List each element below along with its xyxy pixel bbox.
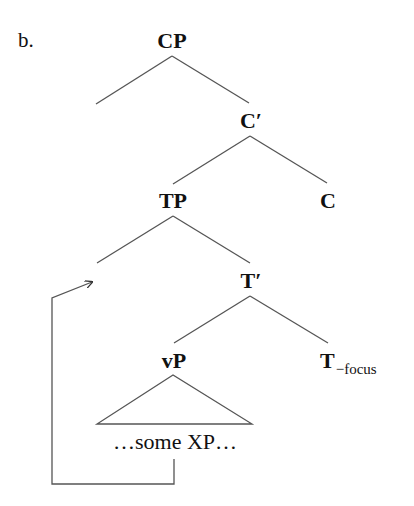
node-t-bar: T′ bbox=[241, 270, 262, 292]
cbar-right-branch bbox=[250, 136, 327, 183]
cp-right-branch bbox=[172, 56, 249, 103]
t-head-subscript: −focus bbox=[336, 361, 377, 377]
vp-triangle bbox=[97, 375, 252, 424]
node-c: C bbox=[320, 190, 336, 212]
cp-left-branch bbox=[96, 56, 172, 104]
tp-left-branch bbox=[97, 216, 173, 263]
vp-content: …some XP… bbox=[113, 431, 237, 453]
t-head-label: T bbox=[320, 348, 335, 373]
node-vp: vP bbox=[162, 350, 186, 372]
cbar-left-branch bbox=[173, 136, 250, 184]
node-t-head: T−focus bbox=[320, 350, 377, 374]
tbar-left-branch bbox=[174, 296, 250, 343]
node-c-bar: C′ bbox=[240, 110, 262, 132]
tbar-right-branch bbox=[250, 296, 328, 343]
tp-right-branch bbox=[173, 216, 250, 263]
example-label: b. bbox=[18, 29, 34, 51]
node-tp: TP bbox=[159, 190, 187, 212]
node-cp: CP bbox=[157, 30, 186, 52]
